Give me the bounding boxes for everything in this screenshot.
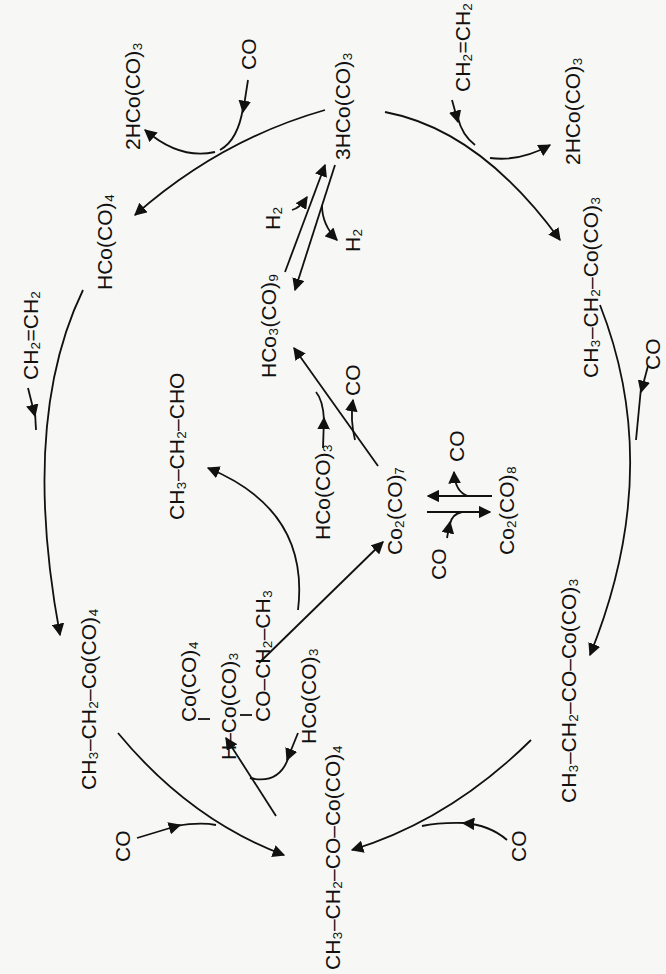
label-h2-in: H₂ — [261, 207, 284, 230]
arrow-3hco3-to-hco4 — [135, 110, 325, 215]
arrow-co-in-bottom-right — [463, 823, 507, 840]
arrow-dinuclear-to-co2co7 — [259, 542, 383, 663]
curve-hco3-center-join — [316, 392, 324, 420]
arrow-co-in-bottom-left — [137, 825, 180, 838]
label-ethyl-co3: CH₃–CH₂–Co(CO)₃ — [579, 196, 602, 378]
arrow-propionyl-co3-to-co4 — [352, 740, 531, 850]
arrow-dinuclear-to-propanal — [208, 468, 299, 610]
arrow-co-eq-out — [454, 472, 468, 496]
label-3hco3: 3HCo(CO)₃ — [331, 52, 354, 160]
arrow-3hco3-to-ethyl-co3 — [385, 112, 560, 240]
curve-hco3-lower-join — [250, 756, 289, 779]
label-co-right-upper: CO — [641, 339, 664, 371]
label-co-eq-in: CO — [427, 549, 450, 581]
label-h2-out: H₂ — [341, 229, 364, 252]
reaction-arrows — [28, 80, 648, 855]
label-propanal: CH₃–CH₂–CHO — [165, 373, 188, 520]
label-co-eq-out: CO — [445, 431, 468, 463]
species-labels: HCo(CO)₄ CO 2HCo(CO)₃ 3HCo(CO)₃ CH₂=CH₂ … — [19, 3, 664, 970]
label-hco3co9: HCo₃(CO)₉ — [257, 274, 280, 378]
label-propionyl-co4: CH₃–CH₂–CO–Co(CO)₄ — [321, 745, 344, 970]
label-2hco3-right: 2HCo(CO)₃ — [561, 57, 584, 165]
arrow-h2-in — [292, 197, 307, 210]
arrow-ethylene-in-right — [452, 100, 458, 122]
label-co-bottom-left: CO — [111, 831, 134, 863]
arrow-2hco3-out-left — [145, 130, 215, 154]
arrow-co-center-out — [352, 400, 355, 440]
label-hco3-lower: HCo(CO)₃ — [297, 648, 320, 744]
arrow-hco4-to-ethyl-co4 — [44, 290, 83, 635]
hydroformylation-cycle-diagram: HCo(CO)₄ CO 2HCo(CO)₃ 3HCo(CO)₃ CH₂=CH₂ … — [0, 0, 666, 974]
label-dinuclear-hco3: H–Co(CO)₃ — [217, 652, 240, 760]
label-co2co8: Co₂(CO)₈ — [495, 466, 518, 555]
arrow-ethylene-in-left — [28, 388, 35, 416]
label-co-top-left: CO — [237, 39, 260, 71]
curve-co-bottom-right-join — [422, 823, 467, 826]
curve-co-right-join — [636, 388, 641, 440]
label-hco4-top: HCo(CO)₄ — [93, 194, 116, 290]
label-co2co7: Co₂(CO)₇ — [383, 467, 406, 555]
label-propionyl-co3: CH₃–CH₂–CO–Co(CO)₃ — [557, 578, 580, 803]
curve-co-bottom-left-join — [176, 824, 216, 826]
arrow-hco3-center-in — [323, 418, 324, 448]
label-co-bottom-right: CO — [507, 831, 530, 863]
label-hco3-center: HCo(CO)₃ — [311, 444, 334, 540]
arrow-co-in-top-left — [243, 80, 248, 112]
label-co-center-out: CO — [341, 365, 364, 397]
label-2hco3-left: 2HCo(CO)₃ — [121, 42, 144, 150]
arrow-co-eq-in — [447, 522, 450, 538]
arrow-propionyl-co4-to-dinuclear — [226, 738, 276, 816]
label-dinuclear-acyl: CO–CH₂–CH₃ — [251, 590, 274, 722]
arrow-co2co7-to-hco3co9 — [294, 348, 378, 466]
label-ethylene-left: CH₂=CH₂ — [19, 291, 42, 380]
arrow-2hco3-out-right — [490, 145, 550, 159]
curve-co-eq-in-join — [450, 512, 462, 524]
label-ethylene-top-right: CH₂=CH₂ — [451, 3, 474, 92]
label-ethyl-co4: CH₃–CH₂–Co(CO)₄ — [77, 608, 100, 790]
label-dinuclear-co4: Co(CO)₄ — [177, 641, 200, 722]
curve-ethylene-join — [458, 118, 475, 145]
curve-ethylene-left-join — [35, 412, 36, 430]
arrow-h2-out — [322, 205, 337, 240]
